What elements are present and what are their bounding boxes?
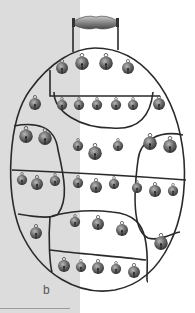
bell-tree-image bbox=[0, 0, 195, 313]
frame bbox=[11, 48, 186, 291]
bells bbox=[17, 53, 178, 278]
handle bbox=[72, 16, 119, 52]
figure-panel: b bbox=[0, 0, 195, 313]
panel-label: b bbox=[43, 283, 50, 297]
